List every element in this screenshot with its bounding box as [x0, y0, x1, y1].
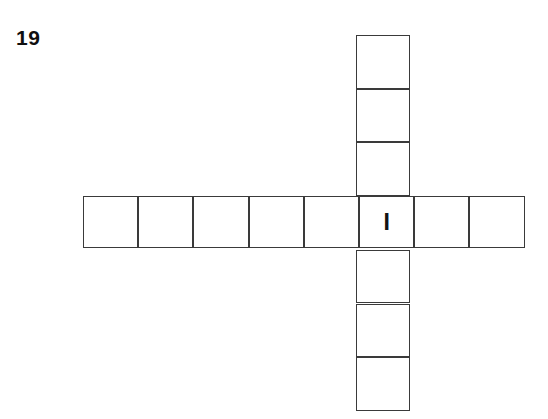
grid-cell-intersection[interactable]: I: [359, 196, 414, 248]
grid-cell-down[interactable]: [356, 35, 410, 89]
crossword-grid: I: [0, 0, 548, 419]
grid-cell-across[interactable]: [138, 196, 193, 248]
grid-cell-down[interactable]: [356, 250, 410, 304]
grid-cell-across[interactable]: [304, 196, 359, 248]
crossword-puzzle: 19 I: [0, 0, 548, 419]
grid-cell-down[interactable]: [356, 89, 410, 143]
grid-cell-down[interactable]: [356, 142, 410, 196]
grid-cell-across[interactable]: [249, 196, 304, 248]
grid-cell-down[interactable]: [356, 304, 410, 358]
cell-letter: I: [383, 211, 389, 234]
grid-cell-across[interactable]: [469, 196, 524, 248]
grid-cell-across[interactable]: [83, 196, 138, 248]
grid-cell-across[interactable]: [193, 196, 248, 248]
grid-cell-across[interactable]: [414, 196, 469, 248]
grid-cell-down[interactable]: [356, 357, 410, 411]
